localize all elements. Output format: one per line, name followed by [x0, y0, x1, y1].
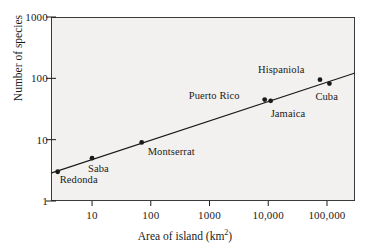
x-axis-tick-label: 100,000	[308, 209, 345, 221]
point-label-cuba: Cuba	[315, 91, 338, 102]
y-axis-tick-label: 10	[4, 134, 48, 146]
x-axis-title: Area of island (km2)	[0, 228, 370, 242]
species-area-chart: 1101001000 10100100010,000100,000 Redond…	[0, 0, 370, 248]
x-axis-title-base: Area of island (km	[138, 230, 225, 242]
y-axis-tick-label: 1000	[4, 11, 48, 23]
y-axis-title: Number of species	[12, 0, 24, 118]
y-axis-tick-labels: 1101001000	[0, 0, 48, 1]
point-label-hispaniola: Hispaniola	[258, 64, 305, 75]
y-axis-tick-label: 100	[4, 72, 48, 84]
point-label-redonda: Redonda	[60, 174, 98, 185]
data-point-puerto-rico	[262, 97, 267, 102]
regression-line	[51, 73, 355, 173]
data-point-montserrat	[139, 140, 144, 145]
point-label-jamaica: Jamaica	[271, 108, 306, 119]
x-axis-title-tail: )	[228, 230, 232, 242]
data-point-cuba	[327, 81, 332, 86]
x-axis-tick-label: 1000	[198, 209, 221, 221]
point-label-montserrat: Montserrat	[148, 146, 195, 157]
data-point-jamaica	[268, 98, 273, 103]
data-point-saba	[90, 156, 95, 161]
data-point-hispaniola	[318, 77, 323, 82]
x-axis-tick-label: 10,000	[253, 209, 284, 221]
point-label-saba: Saba	[88, 163, 109, 174]
y-axis-tick-label: 1	[4, 195, 48, 207]
point-label-puerto-rico: Puerto Rico	[189, 90, 240, 101]
x-axis-tick-label: 10	[86, 209, 97, 221]
x-axis-tick-label: 100	[142, 209, 159, 221]
